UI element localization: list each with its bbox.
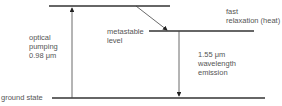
metastable-level-label: metastable level [107,27,144,45]
ground-state-label: ground state [1,93,43,102]
fast-relaxation-label: fast relaxation (heat) [226,7,280,25]
optical-pumping-label: optical pumping 0.98 μm [29,33,58,60]
emission-label: 1.55 μm wavelength emission [198,50,236,77]
